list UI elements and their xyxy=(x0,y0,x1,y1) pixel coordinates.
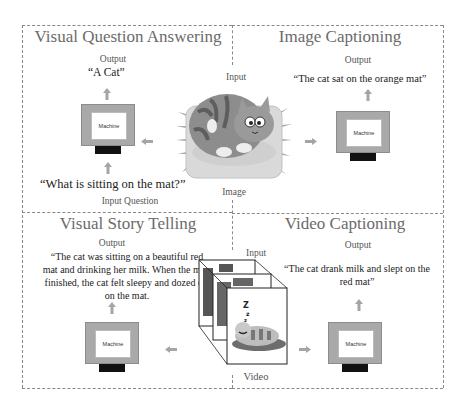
vst-machine: Machine xyxy=(85,322,139,374)
video-output-label: Video xyxy=(236,371,276,382)
monitor-stand xyxy=(95,146,121,154)
video-input-label: Input xyxy=(236,248,276,258)
vqa-question-label: Input Question xyxy=(90,196,170,206)
vc-line-1: “The cat drank milk and slept on the xyxy=(272,262,442,275)
image-captioning-output-text: “The cat sat on the orange mat” xyxy=(290,72,430,85)
frame-top-left xyxy=(22,25,232,26)
image-captioning-output-label: Output xyxy=(328,55,388,65)
video-captioning-output-label: Output xyxy=(328,240,388,250)
monitor-icon: Machine xyxy=(85,322,139,364)
divider-vertical-top xyxy=(232,25,233,65)
machine-label: Machine xyxy=(346,119,382,147)
divider-vertical-bottom xyxy=(232,375,233,388)
frame-right xyxy=(443,25,444,388)
image-captioning-title: Image Captioning xyxy=(240,27,440,47)
vqa-output-text: “A Cat” xyxy=(88,66,125,78)
svg-text:z: z xyxy=(246,310,250,317)
cat-on-mat-illustration xyxy=(172,82,296,186)
vc-line-2: red mat” xyxy=(272,275,442,288)
vqa-question-text: “What is sitting on the mat?” xyxy=(40,177,185,192)
arrow-left-icon xyxy=(141,138,153,145)
arrow-up-icon xyxy=(103,88,111,100)
vqa-title: Visual Question Answering xyxy=(28,27,228,47)
monitor-stand xyxy=(99,364,125,372)
svg-text:Z: Z xyxy=(243,301,249,310)
arrow-up-icon xyxy=(355,299,363,311)
frame-top-right xyxy=(232,25,443,26)
arrow-left-icon xyxy=(165,346,177,353)
monitor-icon: Machine xyxy=(336,111,390,153)
video-captioning-machine: Machine xyxy=(328,322,382,374)
frame-bottom-right xyxy=(232,388,443,389)
image-captioning-machine: Machine xyxy=(336,111,390,163)
vqa-machine: Machine xyxy=(81,104,135,156)
monitor-stand xyxy=(342,364,368,372)
monitor-stand xyxy=(350,153,376,161)
arrow-right-icon xyxy=(305,138,317,145)
frame-bottom-left xyxy=(22,388,232,389)
monitor-icon: Machine xyxy=(81,104,135,146)
cat-video-frames-stack: Z z z xyxy=(197,258,289,374)
video-captioning-output-text: “The cat drank milk and slept on the red… xyxy=(272,262,442,288)
monitor-icon: Machine xyxy=(328,322,382,364)
video-captioning-title: Video Captioning xyxy=(250,214,440,234)
image-input-label: Input xyxy=(216,72,256,82)
vqa-output-label: Output xyxy=(78,54,148,64)
svg-text:z: z xyxy=(244,317,247,323)
arrow-up-icon xyxy=(108,302,116,314)
visual-story-telling-title: Visual Story Telling xyxy=(28,214,228,234)
arrow-up-icon xyxy=(364,89,372,101)
machine-label: Machine xyxy=(95,330,131,358)
divider-vertical-mid xyxy=(232,200,233,250)
frame-left xyxy=(22,25,23,388)
arrow-up-icon xyxy=(104,162,112,174)
image-output-label: Image xyxy=(212,187,256,197)
frame-middle-left xyxy=(22,212,232,213)
machine-label: Machine xyxy=(338,330,374,358)
arrow-right-icon xyxy=(299,346,311,353)
machine-label: Machine xyxy=(91,112,127,140)
vst-output-label: Output xyxy=(82,238,142,248)
